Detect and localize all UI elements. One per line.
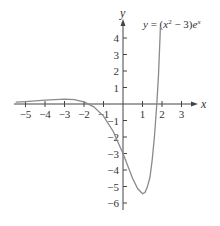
x-axis-arrow-icon (191, 102, 198, 107)
y-tick-label: −4 (107, 164, 119, 176)
x-tick-label: 2 (159, 108, 165, 120)
x-tick-label: −3 (59, 108, 71, 120)
y-ticks (123, 38, 127, 203)
x-tick-label: −4 (39, 108, 51, 120)
x-tick-label: −2 (78, 108, 90, 120)
y-tick-label: −3 (107, 148, 119, 160)
y-tick-label: 4 (114, 32, 120, 44)
x-tick-label: 3 (179, 108, 185, 120)
x-axis-label: x (200, 97, 207, 111)
y-tick-label: 1 (114, 82, 120, 94)
plot-area: −5 −4 −3 −2 −1 1 2 3 4 3 2 1 −1 −2 −3 −4… (0, 0, 220, 226)
y-tick-label: −6 (107, 197, 119, 209)
equation-label: y = (x2 − 3)ex (142, 18, 201, 31)
function-graph: −5 −4 −3 −2 −1 1 2 3 4 3 2 1 −1 −2 −3 −4… (0, 0, 220, 226)
y-tick-label: 2 (114, 65, 120, 77)
y-tick-label: −5 (107, 181, 119, 193)
y-axis-arrow-icon (121, 19, 126, 26)
x-tick-label: −5 (20, 108, 32, 120)
y-tick-label: 3 (114, 49, 120, 61)
y-axis-label: y (119, 6, 126, 20)
x-tick-label: 1 (140, 108, 146, 120)
